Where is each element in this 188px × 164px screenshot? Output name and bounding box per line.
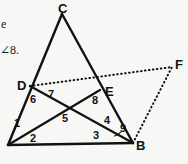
segment-a-b — [8, 143, 133, 145]
caption-fragment-angle: ∠8. — [0, 44, 19, 56]
segment-b-f-dotted — [133, 67, 172, 143]
vertex-label-e: E — [105, 85, 114, 98]
vertex-label-d: D — [17, 79, 26, 92]
angle-label-4: 4 — [104, 115, 110, 126]
caption-fragment-left: e — [1, 18, 6, 30]
vertex-label-b: B — [136, 139, 145, 152]
angle-label-9: 9 — [120, 123, 126, 134]
vertex-label-c: C — [58, 2, 67, 15]
angle-label-7: 7 — [48, 89, 54, 100]
angle-label-5: 5 — [62, 113, 68, 124]
geometry-figure: e ∠8. C D E F B 1 2 3 4 5 6 7 8 9 — [0, 0, 188, 164]
angle-label-8: 8 — [92, 95, 98, 106]
angle-label-3: 3 — [93, 130, 99, 141]
dotted-lines-group — [30, 67, 172, 143]
vertex-label-f: F — [175, 58, 183, 71]
angle-label-6: 6 — [30, 94, 36, 105]
solid-lines-group — [8, 14, 133, 145]
angle-label-1: 1 — [14, 118, 20, 129]
angle-label-2: 2 — [30, 133, 36, 144]
